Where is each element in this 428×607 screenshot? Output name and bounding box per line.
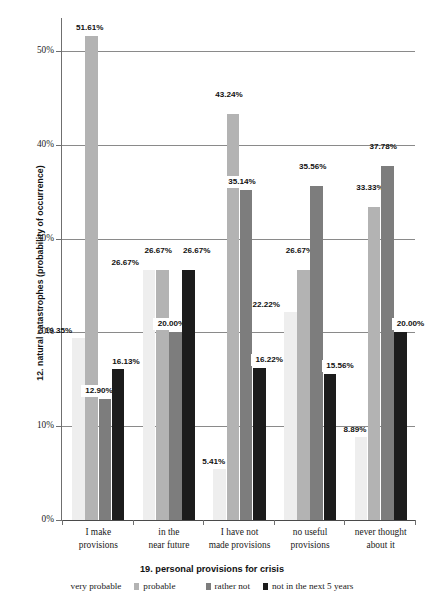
bar xyxy=(284,312,297,520)
bar-value-label: 26.67% xyxy=(181,246,213,256)
y-tick-mark-40 xyxy=(56,145,62,146)
bar xyxy=(85,36,98,520)
legend-swatch-rather-not xyxy=(206,583,211,590)
bar xyxy=(381,166,394,520)
x-tick-mark-1 xyxy=(133,520,134,525)
bar-value-label: 22.22% xyxy=(250,300,282,310)
x-axis-baseline xyxy=(62,520,415,521)
bar xyxy=(213,469,226,520)
bar xyxy=(143,270,156,520)
category-label-line: about it xyxy=(339,539,423,552)
bar-value-label: 26.67% xyxy=(142,246,174,256)
y-tick-label-40: 40% xyxy=(16,139,54,149)
legend-label-0: very probable xyxy=(71,581,122,591)
bar-value-label: 16.22% xyxy=(251,354,287,366)
y-tick-label-10: 10% xyxy=(16,420,54,430)
legend-item-0: very probable xyxy=(71,581,122,591)
x-axis-title: 19. personal provisions for crisis xyxy=(0,564,424,574)
bar-value-label: 51.61% xyxy=(72,22,108,34)
bar xyxy=(99,399,112,520)
legend-label-2: rather not xyxy=(215,581,250,591)
bar-group: 8.89%33.33%37.78%20.00% xyxy=(355,18,407,520)
category-label-line: never thought xyxy=(339,526,423,539)
bar xyxy=(72,338,85,520)
y-tick-mark-50 xyxy=(56,51,62,52)
bar-value-label: 5.41% xyxy=(198,457,230,467)
bar-group: 22.22%26.67%35.56%15.56% xyxy=(284,18,336,520)
plot-area: 0%10%20%30%40%50%19.35%51.61%12.90%16.13… xyxy=(62,18,415,520)
legend-item-2: rather not xyxy=(206,581,250,591)
bar-value-label: 19.35% xyxy=(43,326,75,336)
legend-label-3: not in the next 5 years xyxy=(272,581,353,591)
bar-value-label: 37.78% xyxy=(367,142,399,152)
y-tick-label-50: 50% xyxy=(16,45,54,55)
legend: very probable probable rather not not in… xyxy=(0,581,424,591)
bar xyxy=(182,270,195,520)
x-tick-mark-2 xyxy=(203,520,204,525)
bar-value-label: 35.56% xyxy=(297,162,329,172)
bar-value-label: 8.89% xyxy=(339,425,371,435)
y-tick-mark-10 xyxy=(56,426,62,427)
legend-label-1: probable xyxy=(143,581,175,591)
bar xyxy=(169,332,182,520)
bar-value-label: 26.67% xyxy=(109,258,141,268)
x-tick-mark-3 xyxy=(274,520,275,525)
bar-value-label: 15.56% xyxy=(322,360,358,372)
legend-item-1: probable xyxy=(134,581,175,591)
x-tick-mark-0 xyxy=(62,520,63,525)
y-tick-label-0: 0% xyxy=(16,514,54,524)
y-tick-mark-30 xyxy=(56,239,62,240)
legend-swatch-probable xyxy=(134,583,139,590)
legend-item-3: not in the next 5 years xyxy=(263,581,353,591)
legend-swatch-not-in-5-years xyxy=(263,583,268,590)
bar xyxy=(355,437,368,520)
x-tick-mark-4 xyxy=(344,520,345,525)
bar xyxy=(394,332,407,520)
bar xyxy=(112,369,125,520)
bar-value-label: 43.24% xyxy=(213,90,245,100)
bar-group: 19.35%51.61%12.90%16.13% xyxy=(72,18,124,520)
bar-group: 5.41%43.24%35.14%16.22% xyxy=(213,18,265,520)
bar-value-label: 20.00% xyxy=(392,318,428,330)
bar xyxy=(227,114,240,520)
x-tick-mark-end xyxy=(415,520,416,525)
bar xyxy=(156,270,169,520)
bar xyxy=(324,374,337,520)
bar xyxy=(368,207,381,520)
x-axis-category-4: never thoughtabout it xyxy=(339,526,423,551)
y-tick-label-30: 30% xyxy=(16,233,54,243)
bar xyxy=(253,368,266,520)
bar xyxy=(297,270,310,520)
bar xyxy=(310,186,323,520)
bar-value-label: 35.14% xyxy=(224,176,260,188)
bar-value-label: 16.13% xyxy=(110,357,142,367)
bar-group: 26.67%26.67%20.00%26.67% xyxy=(143,18,195,520)
